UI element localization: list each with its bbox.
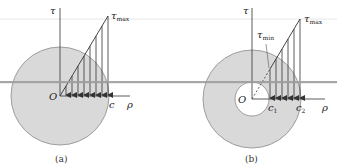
panel-a: τ τmax O c ρ (a) (11, 5, 133, 164)
rho-axis-label: ρ (126, 99, 133, 110)
tau-max-label: τmax (111, 10, 130, 22)
caption-b: (b) (245, 154, 258, 164)
tau-min-label: τmin (257, 29, 274, 41)
origin-label: O (238, 94, 246, 105)
overlay-bar (0, 81, 337, 83)
tau-axis-label: τ (50, 5, 56, 16)
tau-max-label: τmax (304, 13, 323, 25)
stress-distribution-line (270, 19, 300, 69)
caption-a: (a) (55, 154, 67, 164)
rho-axis-label: ρ (321, 102, 328, 113)
outer-radius-label: c (109, 99, 115, 110)
tau-axis-label: τ (243, 5, 249, 16)
panel-b: τ τmax τmin O c1 c2 ρ (b) (203, 5, 328, 164)
torsion-stress-diagram: τ τmax O c ρ (a) τ τmax τmin O c1 c2 ρ (… (0, 0, 337, 167)
origin-label: O (49, 91, 57, 102)
outer-radius-label: c2 (296, 102, 306, 114)
